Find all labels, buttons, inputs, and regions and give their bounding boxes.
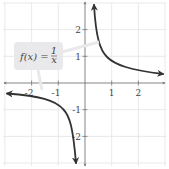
grid bbox=[3, 3, 166, 166]
svg-text:2: 2 bbox=[136, 88, 142, 98]
curve-positive-branch bbox=[94, 5, 163, 74]
function-label: f(x) = bbox=[19, 51, 49, 62]
svg-text:1: 1 bbox=[75, 52, 81, 62]
svg-text:1: 1 bbox=[109, 88, 115, 98]
svg-text:2: 2 bbox=[75, 25, 81, 35]
svg-text:-1: -1 bbox=[52, 88, 61, 98]
svg-text:-1: -1 bbox=[72, 105, 81, 115]
graph: -2 -1 1 2 2 1 -1 -2 f(x) = 1 x bbox=[0, 0, 169, 169]
axes bbox=[4, 2, 165, 166]
y-tick-labels: 2 1 -1 -2 bbox=[72, 25, 81, 142]
svg-text:x: x bbox=[51, 54, 57, 65]
curve-negative-branch bbox=[7, 94, 76, 164]
